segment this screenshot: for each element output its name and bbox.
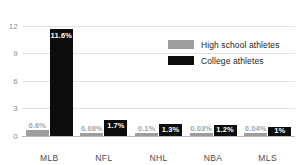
bar-rect-high-school[interactable] bbox=[80, 133, 103, 136]
y-axis-tick-label: 3 bbox=[0, 104, 18, 113]
bar-chart: 036912 0.6%11.6%0.08%1.7%0.1%1.3%0.03%1.… bbox=[0, 0, 299, 165]
y-axis-tick-label: 0 bbox=[0, 132, 18, 141]
legend-label-college: College athletes bbox=[201, 56, 264, 66]
bar-rect-high-school[interactable] bbox=[190, 133, 213, 136]
bar-rect-college[interactable] bbox=[50, 29, 73, 136]
bar-college[interactable]: 1.7% bbox=[104, 20, 127, 136]
bar-rect-high-school[interactable] bbox=[244, 133, 267, 136]
bar-rect-high-school[interactable] bbox=[135, 133, 158, 136]
x-axis-category-label: NHL bbox=[131, 153, 186, 163]
legend-item-college: College athletes bbox=[168, 54, 280, 67]
bar-college[interactable]: 11.6% bbox=[50, 20, 73, 136]
bar-high-school[interactable]: 0.08% bbox=[80, 20, 103, 136]
bar-value-label: 0.04% bbox=[245, 125, 267, 133]
bar-value-label: 1.7% bbox=[107, 122, 125, 130]
legend-label-high-school: High school athletes bbox=[201, 40, 280, 50]
bar-value-label: 0.1% bbox=[138, 125, 156, 133]
x-axis-category-label: NBA bbox=[186, 153, 241, 163]
legend-item-high-school: High school athletes bbox=[168, 38, 280, 51]
bar-value-label: 0.03% bbox=[190, 125, 212, 133]
y-axis-tick-label: 12 bbox=[0, 21, 18, 30]
x-axis-line bbox=[22, 136, 295, 137]
x-axis-category-label: MLB bbox=[22, 153, 77, 163]
bar-value-label: 1.2% bbox=[216, 126, 234, 134]
bar-rect-high-school[interactable] bbox=[26, 130, 49, 136]
y-axis-tick-label: 6 bbox=[0, 76, 18, 85]
bar-value-label: 1.3% bbox=[162, 126, 180, 134]
chart-legend: High school athletes College athletes bbox=[168, 38, 280, 70]
bar-value-label: 11.6% bbox=[51, 32, 72, 40]
legend-swatch-college-icon bbox=[168, 56, 194, 65]
bar-group: 0.6%11.6% bbox=[22, 20, 77, 136]
y-axis-tick-label: 9 bbox=[0, 49, 18, 58]
bar-value-label: 1% bbox=[274, 127, 285, 135]
bar-value-label: 0.6% bbox=[29, 122, 47, 130]
bar-high-school[interactable]: 0.6% bbox=[26, 20, 49, 136]
bar-group: 0.08%1.7% bbox=[77, 20, 132, 136]
bar-high-school[interactable]: 0.1% bbox=[135, 20, 158, 136]
bar-value-label: 0.08% bbox=[81, 125, 103, 133]
x-axis-category-label: MLS bbox=[240, 153, 295, 163]
legend-swatch-high-school-icon bbox=[168, 40, 194, 49]
x-axis-category-label: NFL bbox=[77, 153, 132, 163]
